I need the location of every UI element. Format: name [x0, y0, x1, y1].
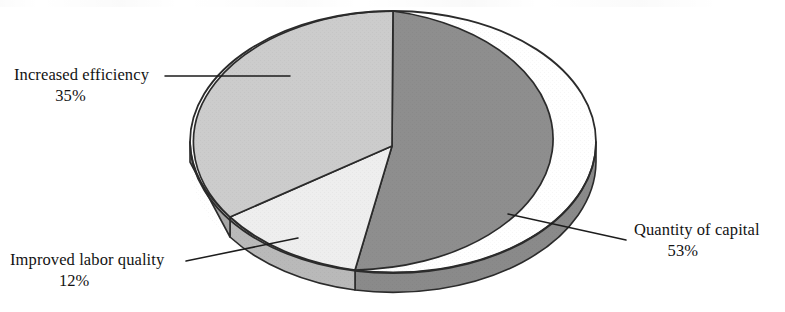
slice-label-improved-labor-quality-value: 12%: [10, 270, 164, 291]
pie-top-face-texture: [190, 11, 596, 273]
slice-label-increased-efficiency-name: Increased efficiency: [14, 64, 149, 85]
slice-label-quantity-of-capital-value: 53%: [634, 240, 760, 261]
slice-label-increased-efficiency: Increased efficiency 35%: [14, 64, 149, 106]
slice-label-quantity-of-capital-name: Quantity of capital: [634, 219, 760, 240]
pie-chart-figure: Increased efficiency 35% Improved labor …: [0, 0, 785, 312]
pie-top-face: [190, 11, 596, 273]
slice-label-improved-labor-quality-name: Improved labor quality: [10, 249, 164, 270]
slice-label-improved-labor-quality: Improved labor quality 12%: [10, 249, 164, 291]
slice-label-quantity-of-capital: Quantity of capital 53%: [634, 219, 760, 261]
slice-label-increased-efficiency-value: 35%: [14, 85, 149, 106]
